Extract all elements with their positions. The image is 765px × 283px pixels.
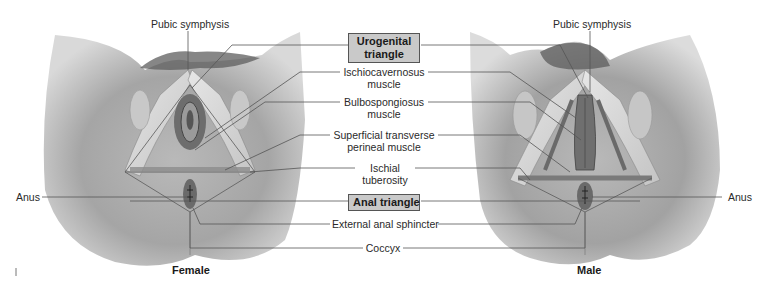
label-ischial-tuberosity: Ischial tuberosity bbox=[355, 162, 415, 186]
label-pubic-symphysis-male: Pubic symphysis bbox=[551, 18, 633, 30]
label-bulbospongiosus-muscle: Bulbospongiosus muscle bbox=[340, 96, 428, 120]
urogenital-box-line1: Urogenital bbox=[353, 35, 415, 48]
female-pelvis-illustration bbox=[44, 32, 305, 266]
label-superficial-transverse-perineal-muscle: Superficial transverse perineal muscle bbox=[330, 129, 438, 153]
anal-triangle-box: Anal triangle bbox=[348, 194, 420, 211]
urogenital-triangle-box: Urogenital triangle bbox=[348, 33, 420, 63]
label-anus-male: Anus bbox=[726, 191, 754, 203]
urogenital-box-line2: triangle bbox=[353, 48, 415, 61]
caption-male: Male bbox=[577, 264, 601, 276]
ischiocavernosus-line2: muscle bbox=[342, 78, 426, 90]
label-external-anal-sphincter: External anal sphincter bbox=[330, 218, 438, 230]
ischial-line2: tuberosity bbox=[357, 174, 413, 186]
label-anus-female: Anus bbox=[14, 191, 42, 203]
ischial-line1: Ischial bbox=[357, 162, 413, 174]
bulbospongiosus-line2: muscle bbox=[342, 108, 426, 120]
bulbospongiosus-line1: Bulbospongiosus bbox=[342, 96, 426, 108]
superficial-transverse-line1: Superficial transverse bbox=[332, 129, 436, 141]
label-pubic-symphysis-female: Pubic symphysis bbox=[149, 18, 231, 30]
label-coccyx: Coccyx bbox=[363, 242, 403, 254]
caption-female: Female bbox=[172, 264, 210, 276]
ischiocavernosus-line1: Ischiocavernosus bbox=[342, 66, 426, 78]
label-ischiocavernosus-muscle: Ischiocavernosus muscle bbox=[340, 66, 428, 90]
male-pelvis-illustration bbox=[470, 32, 720, 264]
superficial-transverse-line2: perineal muscle bbox=[332, 141, 436, 153]
